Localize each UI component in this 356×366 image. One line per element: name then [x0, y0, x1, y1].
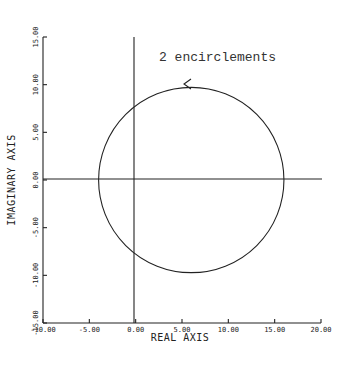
- encirclements-annotation: 2 encirclements: [159, 50, 276, 65]
- y-tick-label: -15.00: [32, 310, 40, 335]
- y-tick-label: 0.00: [32, 172, 40, 189]
- y-tick-label: -10.00: [32, 263, 40, 288]
- y-tick-label: 10.00: [32, 74, 40, 95]
- x-tick-label: 0.00: [127, 326, 144, 334]
- nyquist-contour: [99, 87, 284, 272]
- x-tick-label: -5.00: [79, 326, 100, 334]
- y-tick-label: 5.00: [32, 124, 40, 141]
- nyquist-plot: -10.00-5.000.005.0010.0015.0020.00 -15.0…: [0, 0, 356, 366]
- y-axis-title: IMAGINARY AXIS: [6, 134, 17, 225]
- x-axis-title: REAL AXIS: [151, 332, 210, 343]
- y-tick-label: -5.00: [32, 217, 40, 238]
- x-tick-label: 15.00: [264, 326, 285, 334]
- y-tick-label: 15.00: [32, 26, 40, 47]
- x-tick-label: 20.00: [310, 326, 331, 334]
- y-ticks: -15.00-10.00-5.000.005.0010.0015.00: [32, 26, 47, 335]
- x-tick-label: 10.00: [218, 326, 239, 334]
